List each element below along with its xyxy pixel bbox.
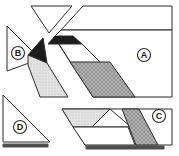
piece-d-triangle <box>3 95 50 142</box>
puzzle-pieces-layer <box>3 6 172 149</box>
dissection-puzzle-diagram: ABCD <box>0 0 179 156</box>
piece-label-a: A <box>141 50 148 60</box>
piece-label-c: C <box>156 111 163 121</box>
bottom-band-c <box>73 127 135 145</box>
shadow-bar-d <box>3 144 48 147</box>
puzzle-figure-svg: ABCD <box>0 0 179 156</box>
shadow-bar-c <box>86 146 164 149</box>
piece-label-d: D <box>17 122 24 132</box>
piece-label-b: B <box>15 48 22 58</box>
piece-a-top-strip <box>61 6 172 30</box>
stippled-polygon-b <box>28 55 68 97</box>
